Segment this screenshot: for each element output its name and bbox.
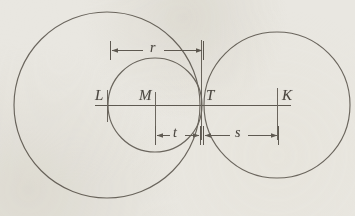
point-label-L: L: [95, 88, 103, 103]
dimension-label-t: t: [173, 126, 177, 140]
dimension-label-s: s: [235, 126, 240, 140]
figure-canvas: [0, 0, 355, 216]
dimension-label-r: r: [150, 41, 155, 55]
dimension-t: [156, 126, 201, 145]
point-label-T: T: [206, 88, 214, 103]
point-label-M: M: [139, 88, 152, 103]
geometry-figure: L M T K r t s: [0, 0, 355, 216]
dimension-r: [111, 41, 204, 60]
point-label-K: K: [282, 88, 292, 103]
